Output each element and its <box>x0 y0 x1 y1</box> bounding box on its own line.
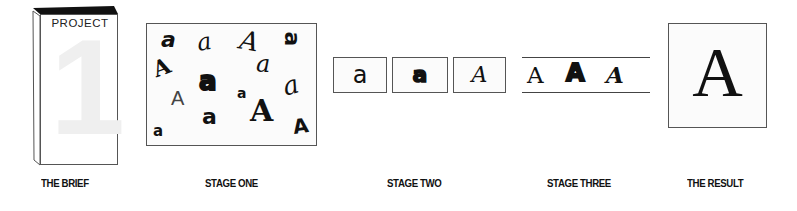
stage-two-box: a <box>392 57 448 93</box>
caption-the-result: THE RESULT <box>687 177 743 189</box>
book-number: 1 <box>50 20 110 155</box>
caption-stage-one: STAGE ONE <box>205 177 258 189</box>
result-frame: A <box>668 23 767 128</box>
stage-one-glyph: a <box>237 86 246 100</box>
stage-three-bottom-rule <box>522 92 650 93</box>
stage-three-glyph: A <box>566 61 585 85</box>
result-glyph: A <box>669 38 766 108</box>
stage-one-glyph: a <box>161 29 176 51</box>
stage-one-glyph: a <box>199 68 217 94</box>
book-label: PROJECT <box>44 17 116 29</box>
caption-the-brief: THE BRIEF <box>41 177 89 189</box>
caption-stage-two: STAGE TWO <box>387 177 441 189</box>
stage-one-glyph: A <box>292 115 310 137</box>
stage-one-glyph: A <box>250 96 273 126</box>
stage-two-box: a <box>333 57 387 93</box>
stage-one-glyph: a <box>280 70 302 99</box>
stage-one-glyph: a <box>256 52 270 76</box>
stage-one-glyph: A <box>171 88 184 108</box>
stage-one-glyph: A <box>150 54 174 81</box>
stage-one-glyph: a <box>281 32 303 47</box>
stage-three-glyph: A <box>527 64 544 87</box>
stage-three-top-rule <box>522 57 650 58</box>
caption-stage-three: STAGE THREE <box>547 177 611 189</box>
stage-two-glyph: A <box>454 64 505 86</box>
stage-two-box: A <box>453 57 506 93</box>
stage-one-glyph: a <box>195 29 213 55</box>
stage-one-glyph: a <box>202 106 217 128</box>
stage-three-glyph: A <box>606 63 624 86</box>
stage-two-glyph: a <box>334 63 386 87</box>
stage-two-glyph: a <box>393 64 447 86</box>
stage-one-glyph: a <box>153 124 163 139</box>
stage-one-frame: a a A a A a a a A a a A A a <box>146 23 317 146</box>
